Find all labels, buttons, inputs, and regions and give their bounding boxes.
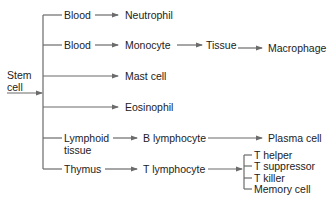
node-monocyte: Monocyte: [125, 40, 171, 51]
node-blood-2: Blood: [64, 40, 91, 51]
node-tissue: Tissue: [206, 40, 237, 51]
node-macrophage: Macrophage: [268, 43, 326, 54]
node-mast-cell: Mast cell: [125, 71, 166, 82]
node-t-suppressor: T suppressor: [254, 161, 315, 172]
stem-cell-label-2: cell: [7, 82, 23, 93]
node-b-lymphocyte: B lymphocyte: [143, 133, 206, 144]
node-memory-cell: Memory cell: [254, 184, 311, 195]
node-t-lymphocyte: T lymphocyte: [143, 164, 205, 175]
node-lymphoid: Lymphoid: [64, 133, 109, 144]
stem-cell-label: Stem: [7, 70, 32, 81]
node-neutrophil: Neutrophil: [125, 10, 173, 21]
node-plasma-cell: Plasma cell: [268, 133, 322, 144]
node-blood-1: Blood: [64, 10, 91, 21]
node-thymus: Thymus: [64, 164, 101, 175]
node-eosinophil: Eosinophil: [125, 102, 173, 113]
node-lymphoid-tissue: tissue: [64, 145, 91, 156]
